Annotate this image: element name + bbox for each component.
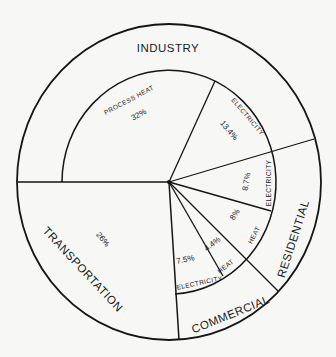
pct-residential-electricity: 8.7% [241, 172, 253, 192]
pie-chart: INDUSTRY RESIDENTIAL COMMERCIAL TRANSPOR… [0, 0, 336, 357]
pct-commercial-electricity: 7.5% [176, 253, 196, 266]
divider-process-elec [169, 81, 215, 182]
label-residential: RESIDENTIAL [275, 198, 311, 279]
label-commercial: COMMERCIAL [190, 293, 272, 335]
label-industry: INDUSTRY [137, 42, 200, 54]
center-point [167, 180, 171, 184]
pct-residential-heat: 8% [228, 207, 242, 222]
divider-industry-residential [169, 139, 314, 182]
divider-residential-commercial [169, 182, 278, 291]
label-transportation: TRANSPORTATION [41, 225, 126, 314]
label-residential-electricity: ELECTRICITY [265, 159, 272, 206]
pct-transportation: 26% [94, 230, 111, 248]
pct-commercial-heat: 4.4% [203, 235, 223, 253]
pct-industry-electricity: 13.4% [218, 119, 239, 142]
label-commercial-electricity: ELECTRICITY [176, 274, 223, 291]
pct-process-heat: 32% [130, 107, 148, 122]
